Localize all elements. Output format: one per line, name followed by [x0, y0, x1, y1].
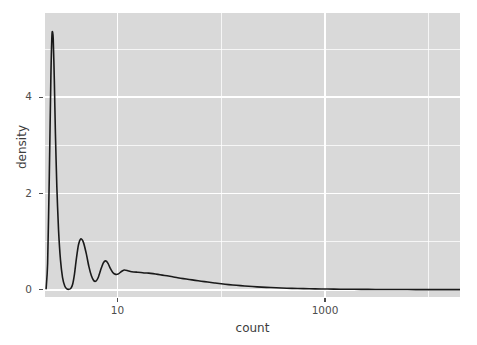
y-tick-label: 0 [8, 283, 32, 295]
x-tick-label: 1000 [295, 304, 355, 316]
density-curve-layer [45, 13, 460, 297]
plot-panel [45, 13, 460, 297]
density-plot: 024 101000 density count [0, 0, 477, 345]
x-tick-mark [117, 298, 118, 302]
y-axis-title: density [15, 107, 29, 187]
x-axis-title: count [45, 321, 460, 335]
y-tick-mark [39, 97, 43, 98]
x-tick-label: 10 [88, 304, 148, 316]
y-tick-label: 2 [8, 187, 32, 199]
y-tick-mark [39, 289, 43, 290]
y-tick-label: 4 [8, 90, 32, 102]
density-curve [46, 32, 460, 290]
y-tick-mark [39, 193, 43, 194]
x-tick-mark [324, 298, 325, 302]
